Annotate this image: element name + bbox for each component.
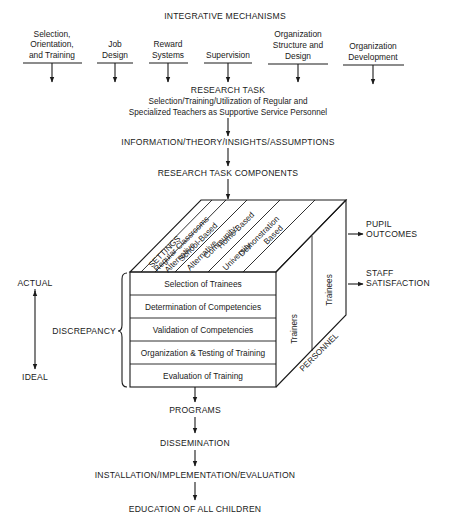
ideal-label: IDEAL — [22, 372, 48, 382]
mechanism-selection-orientation-training: Selection, Orientation, and Training — [23, 29, 82, 82]
personnel-trainees: Trainees — [325, 274, 334, 306]
research-task-title: RESEARCH TASK — [191, 85, 265, 95]
staff-satisfaction-line1: STAFF — [366, 268, 394, 278]
mechanism-reward-systems: Reward Systems — [149, 39, 188, 82]
mechanism-supervision: Supervision — [204, 50, 252, 82]
mechanism-label-line: Structure and — [273, 40, 324, 50]
mechanism-label-line: Design — [285, 51, 311, 61]
component-row: Selection of Trainees — [164, 279, 241, 289]
mechanism-label-line: Organization — [349, 41, 397, 51]
mechanism-label-line: Systems — [152, 50, 184, 60]
installation-label: INSTALLATION/IMPLEMENTATION/EVALUATION — [95, 470, 296, 480]
personnel-trainers: Trainers — [290, 314, 299, 344]
staff-satisfaction-line2: SATISFACTION — [366, 278, 430, 288]
integrative-mechanisms-title: INTEGRATIVE MECHANISMS — [164, 11, 286, 21]
personnel-label: PERSONNEL — [298, 331, 340, 373]
mechanism-label-line: Design — [102, 50, 128, 60]
research-task-line2: Specialized Teachers as Supportive Servi… — [129, 108, 327, 117]
mechanism-label-line: Reward — [154, 39, 183, 49]
mechanism-label-line: Supervision — [206, 50, 250, 60]
mechanism-label-line: and Training — [29, 50, 75, 60]
component-row: Determination of Competencies — [145, 302, 261, 312]
component-row: Organization & Testing of Training — [141, 348, 266, 358]
mechanism-label-line: Development — [348, 52, 398, 62]
mechanism-organization-structure-design: Organization Structure and Design — [268, 29, 328, 82]
dissemination-label: DISSEMINATION — [160, 438, 230, 448]
research-task-line1: Selection/Training/Utilization of Regula… — [149, 97, 308, 106]
programs-label: PROGRAMS — [169, 405, 221, 415]
pupil-outcomes-line2: OUTCOMES — [366, 229, 417, 239]
actual-label: ACTUAL — [17, 278, 52, 288]
research-task-components-label: RESEARCH TASK COMPONENTS — [158, 168, 299, 178]
education-of-all-children-label: EDUCATION OF ALL CHILDREN — [129, 504, 262, 514]
research-model-diagram: INTEGRATIVE MECHANISMS Selection, Orient… — [0, 0, 450, 529]
mechanism-job-design: Job Design — [97, 39, 133, 82]
information-theory-label: INFORMATION/THEORY/INSIGHTS/ASSUMPTIONS — [121, 137, 334, 147]
brace-icon — [118, 273, 127, 387]
mechanism-label-line: Orientation, — [30, 39, 73, 49]
mechanism-label-line: Organization — [274, 29, 322, 39]
mechanism-label-line: Job — [108, 39, 122, 49]
mechanism-label-line: Selection, — [34, 29, 71, 39]
discrepancy-label: DISCREPANCY — [52, 326, 116, 336]
pupil-outcomes-line1: PUPIL — [366, 219, 392, 229]
component-row: Evaluation of Training — [163, 371, 243, 381]
mechanism-organization-development: Organization Development — [343, 41, 404, 84]
component-row: Validation of Competencies — [153, 325, 253, 335]
